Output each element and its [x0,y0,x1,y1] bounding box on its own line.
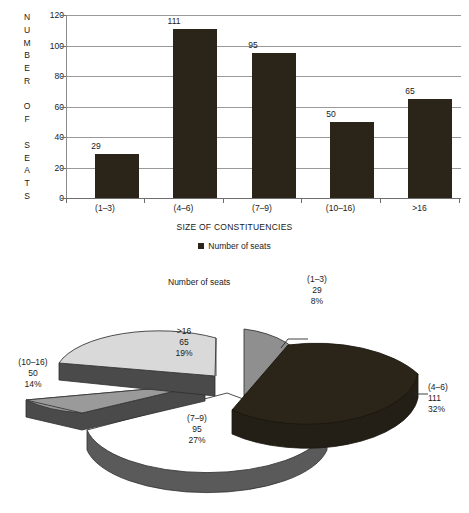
pie-chart: Number of seats [0,262,469,513]
x-tickmark [459,198,460,203]
pie-label-7-9-category: (7–9) [166,413,228,424]
pie-label-gt16-category: >16 [159,326,209,337]
pie-label-gt16: >16 65 19% [159,326,209,359]
bar-value-gt16: 65 [388,86,432,96]
y-title-letter: S [24,141,30,150]
y-title-letter: F [24,115,29,124]
bar-value-7-9: 95 [231,40,275,50]
bar-4-6[interactable] [173,29,217,198]
pie-label-gt16-percent: 19% [159,348,209,359]
y-title-letter: E [24,64,30,73]
pie-label-4-6-value: 111 [428,393,469,404]
bar-y-axis-title: N U M B E R O F S E A T S [20,13,34,201]
bar-chart: N U M B E R O F S E A T S 120 100 80 60 … [0,0,469,262]
bar-7-9[interactable] [252,53,296,198]
pie-chart-graphic [0,262,469,513]
pie-label-4-6-category: (4–6) [428,382,469,393]
bar-value-1-3: 29 [74,141,118,151]
y-title-letter: S [24,192,30,201]
y-title-letter: A [24,166,30,175]
x-label-7-9: (7–9) [223,203,301,213]
bar-x-axis-title: SIZE OF CONSTITUENCIES [0,222,469,232]
bar-x-axis-line [66,198,461,199]
x-label-gt16: >16 [380,203,459,213]
legend-swatch-icon [198,243,204,249]
pie-label-1-3: (1–3) 29 8% [286,274,348,307]
bar-legend: Number of seats [0,241,469,251]
pie-label-gt16-value: 65 [159,337,209,348]
figure-container: N U M B E R O F S E A T S 120 100 80 60 … [0,0,469,513]
bar-gt16[interactable] [408,99,452,198]
bar-value-4-6: 111 [152,16,196,26]
x-label-4-6: (4–6) [144,203,223,213]
y-title-letter: U [24,26,30,35]
pie-label-7-9-percent: 27% [166,435,228,446]
pie-label-1-3-value: 29 [286,285,348,296]
x-label-1-3: (1–3) [66,203,144,213]
pie-label-7-9-value: 95 [166,424,228,435]
y-title-letter: E [24,154,30,163]
y-title-letter: O [24,102,31,111]
pie-label-1-3-category: (1–3) [286,274,348,285]
pie-label-10-16-percent: 14% [2,379,64,390]
pie-label-7-9: (7–9) 95 27% [166,413,228,446]
pie-label-1-3-percent: 8% [286,296,348,307]
pie-label-10-16: (10–16) 50 14% [2,357,64,390]
y-title-letter: B [24,51,30,60]
gridline-120 [67,15,461,16]
pie-label-10-16-value: 50 [2,368,64,379]
pie-label-10-16-category: (10–16) [2,357,64,368]
y-title-letter: R [24,77,30,86]
y-title-letter: T [24,179,29,188]
x-label-10-16: (10–16) [301,203,380,213]
y-title-letter: N [24,13,30,22]
legend-label: Number of seats [208,241,270,251]
bar-y-tick-labels: 120 100 80 60 40 20 0 [36,0,64,215]
bar-10-16[interactable] [330,122,374,198]
bar-1-3[interactable] [95,154,139,198]
pie-label-4-6: (4–6) 111 32% [428,382,469,415]
pie-label-4-6-percent: 32% [428,404,469,415]
bar-value-10-16: 50 [309,109,353,119]
y-title-letter: M [23,39,30,48]
